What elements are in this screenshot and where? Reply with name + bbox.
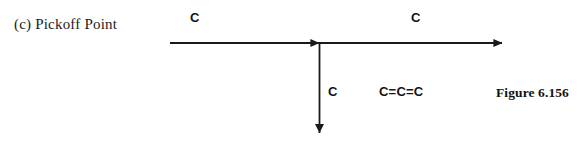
figure-canvas: (c) Pickoff Point C C C C=C=C Figure 6.1… — [0, 0, 588, 142]
part-caption: (c) Pickoff Point — [14, 16, 117, 33]
branch-signal-label: C — [328, 84, 338, 99]
figure-number-label: Figure 6.156 — [496, 85, 569, 101]
input-signal-label: C — [190, 10, 200, 25]
equality-expression-label: C=C=C — [379, 84, 423, 99]
pickoff-node — [318, 42, 320, 44]
output-signal-label: C — [411, 10, 421, 25]
